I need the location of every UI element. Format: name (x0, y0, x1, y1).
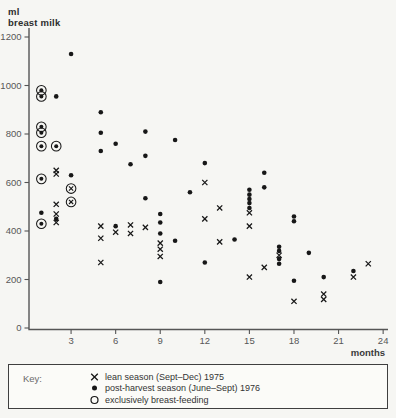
data-point-filled-dot (203, 260, 208, 265)
x-tick-label: 15 (244, 335, 255, 346)
y-tick-label: 1200 (0, 31, 21, 42)
data-point-x (217, 239, 222, 244)
data-point-filled-dot (54, 94, 59, 99)
data-point-x (351, 274, 356, 279)
data-point-filled-dot (247, 187, 252, 192)
data-point-filled-dot (158, 280, 163, 285)
data-point-filled-dot (158, 231, 163, 236)
x-tick-label: 21 (333, 335, 344, 346)
data-point-filled-dot (143, 196, 148, 201)
data-point-filled-dot (277, 249, 282, 254)
data-point-x (262, 265, 267, 270)
data-point-x (366, 261, 371, 266)
data-point-filled-dot (69, 173, 74, 178)
data-point-circled-dot (51, 141, 61, 151)
data-point-filled-dot (113, 224, 118, 229)
data-point-filled-dot (69, 52, 74, 57)
data-point-x (54, 202, 59, 207)
x-tick-label: 24 (378, 335, 389, 346)
data-point-x (321, 291, 326, 296)
x-tick-label: 3 (68, 335, 73, 346)
data-point-x (54, 211, 59, 216)
filled-dot-marker-icon (89, 383, 105, 393)
data-point-x (321, 297, 326, 302)
data-point-circled-x (66, 184, 76, 194)
data-point-filled-dot (247, 206, 252, 211)
y-tick-label: 1000 (0, 80, 21, 91)
data-point-x (158, 247, 163, 252)
legend-entry-label: exclusively breast-feeding (105, 395, 209, 405)
y-tick-label: 0 (16, 322, 21, 333)
data-point-filled-dot (158, 212, 163, 217)
data-point-filled-dot (39, 211, 44, 216)
data-point-x (202, 216, 207, 221)
data-point-x (143, 225, 148, 230)
data-point-filled-dot (232, 237, 237, 242)
data-point-x (128, 231, 133, 236)
data-point-filled-dot (247, 197, 252, 202)
data-point-filled-dot (277, 261, 282, 266)
scatter-figure: ml breast milk 0200400600800100012003691… (0, 0, 396, 418)
data-point-filled-dot (99, 110, 104, 115)
legend-entry-lean-season: lean season (Sept–Dec) 1975 (89, 371, 260, 383)
data-point-filled-dot (99, 149, 104, 154)
data-point-filled-dot (277, 244, 282, 249)
legend-entry-label: lean season (Sept–Dec) 1975 (105, 372, 224, 382)
data-point-x (217, 205, 222, 210)
data-point-filled-dot (203, 161, 208, 166)
open-circle-marker-icon (89, 395, 105, 405)
data-point-circled-x (66, 197, 76, 207)
data-point-filled-dot (128, 162, 133, 167)
data-point-circled-dot (37, 174, 47, 184)
data-point-filled-dot (188, 190, 193, 195)
legend-key-label: Key: (9, 365, 89, 384)
data-point-x (158, 254, 163, 259)
data-point-x (202, 180, 207, 185)
data-point-filled-dot (247, 192, 252, 197)
y-tick-label: 200 (6, 274, 22, 285)
x-tick-label: 12 (200, 335, 211, 346)
x-axis-title: months (351, 347, 385, 358)
data-point-filled-dot (292, 219, 297, 224)
axes-line (29, 28, 388, 330)
data-point-filled-dot (307, 251, 312, 256)
data-point-circled-dot (37, 141, 47, 151)
data-point-filled-dot (351, 269, 356, 274)
data-point-filled-dot (262, 171, 267, 176)
legend-entry-label: post-harvest season (June–Sept) 1976 (105, 383, 260, 393)
data-point-filled-dot (292, 278, 297, 283)
data-point-circled-dot (37, 219, 47, 229)
data-point-x (113, 230, 118, 235)
data-point-filled-dot (247, 201, 252, 206)
y-tick-label: 400 (6, 225, 22, 236)
data-point-filled-dot (173, 138, 178, 143)
data-point-filled-dot (99, 130, 104, 135)
data-point-filled-dot (321, 275, 326, 280)
data-point-filled-dot (113, 141, 118, 146)
legend-entry-exclusive-breastfeeding: exclusively breast-feeding (89, 394, 260, 406)
legend-entries: lean season (Sept–Dec) 1975 post-harvest… (89, 365, 260, 406)
x-tick-label: 9 (158, 335, 163, 346)
legend-box: Key: lean season (Sept–Dec) 1975 post-ha… (8, 364, 388, 409)
data-point-x (291, 299, 296, 304)
data-point-filled-dot (143, 129, 148, 134)
legend-entry-post-harvest: post-harvest season (June–Sept) 1976 (89, 383, 260, 395)
data-point-circled-dot (37, 92, 47, 102)
y-tick-label: 600 (6, 177, 22, 188)
data-point-filled-dot (54, 217, 59, 222)
data-point-filled-dot (173, 238, 178, 243)
data-point-x (247, 224, 252, 229)
data-point-filled-dot (292, 214, 297, 219)
x-tick-label: 18 (289, 335, 300, 346)
data-point-x (247, 274, 252, 279)
data-point-filled-dot (262, 185, 267, 190)
data-point-filled-dot (277, 257, 282, 262)
data-point-x (158, 241, 163, 246)
data-point-circled-dot (37, 128, 47, 138)
data-point-x (247, 210, 252, 215)
data-point-x (54, 171, 59, 176)
y-tick-label: 800 (6, 128, 22, 139)
data-point-x (98, 236, 103, 241)
data-point-filled-dot (158, 220, 163, 225)
x-marker-icon (89, 372, 105, 382)
